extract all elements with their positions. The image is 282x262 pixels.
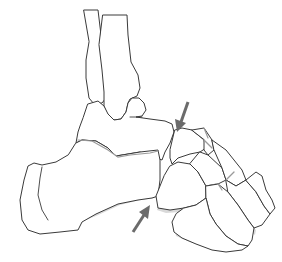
foot-anatomy-figure: Lateral view of foot and ankle bones wit… — [0, 0, 282, 262]
calcaneus-bone — [20, 140, 160, 234]
arrow-upper — [175, 102, 188, 132]
foot-illustration — [0, 0, 282, 262]
arrow-lower — [133, 205, 150, 232]
